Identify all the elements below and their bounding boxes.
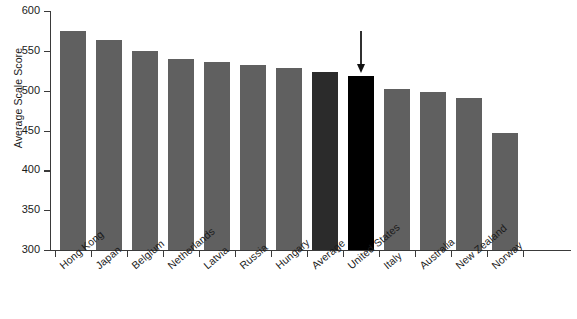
bar-average — [312, 72, 338, 250]
bar-hungary — [276, 68, 302, 250]
x-axis-tick — [523, 251, 524, 257]
bar-netherlands — [168, 59, 194, 250]
y-axis-tick-label: 300 — [0, 243, 40, 255]
y-axis-tick-label: 350 — [0, 203, 40, 215]
y-axis-tick-label: 600 — [0, 4, 40, 16]
x-axis-tick — [199, 251, 200, 257]
x-axis-tick — [307, 251, 308, 257]
y-axis-tick-label: 400 — [0, 163, 40, 175]
y-axis-tick-label: 500 — [0, 83, 40, 95]
bar-belgium — [132, 51, 158, 250]
bar-hong-kong — [60, 31, 86, 250]
bar-united-states — [348, 76, 374, 250]
bar-australia — [420, 92, 446, 250]
arrow-head-icon — [357, 64, 365, 73]
x-axis-tick — [487, 251, 488, 257]
bar-chart: Average Scale Score 30035040045050055060… — [0, 0, 577, 319]
x-axis-tick — [91, 251, 92, 257]
x-axis-label-italy: Italy — [381, 249, 404, 271]
bar-japan — [96, 40, 122, 250]
x-axis-tick — [379, 251, 380, 257]
x-axis-tick — [127, 251, 128, 257]
arrow-shaft — [360, 31, 362, 64]
x-axis-tick — [451, 251, 452, 257]
x-axis-tick — [271, 251, 272, 257]
x-axis-tick — [415, 251, 416, 257]
y-axis-tick-label: 450 — [0, 123, 40, 135]
bars-container — [50, 11, 570, 250]
y-axis-tick — [44, 250, 51, 251]
x-axis-tick — [343, 251, 344, 257]
y-axis-title: Average Scale Score — [12, 8, 24, 188]
y-axis-tick-label: 550 — [0, 43, 40, 55]
bar-latvia — [204, 62, 230, 250]
x-axis-tick — [163, 251, 164, 257]
x-axis-tick — [235, 251, 236, 257]
x-axis-tick — [55, 251, 56, 257]
bar-russia — [240, 65, 266, 250]
bar-new-zealand — [456, 98, 482, 250]
